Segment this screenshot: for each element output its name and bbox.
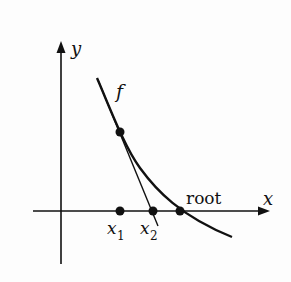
- x-axis-label: x: [263, 188, 273, 209]
- x2-label: x: [140, 218, 150, 238]
- y-axis-arrow-icon: [57, 41, 66, 53]
- point-x1: [116, 207, 125, 216]
- diagram-svg: y x f root x 1 x 2: [0, 0, 291, 282]
- x2-subscript: 2: [150, 229, 158, 243]
- curve-label-f: f: [114, 80, 126, 102]
- root-label: root: [186, 188, 222, 208]
- x1-subscript: 1: [117, 229, 125, 243]
- point-on-curve: [116, 128, 125, 137]
- x1-label: x: [107, 218, 117, 238]
- tangent-line: [98, 80, 158, 226]
- point-x2: [149, 207, 158, 216]
- y-axis-label: y: [70, 38, 82, 59]
- newton-method-diagram: y x f root x 1 x 2: [0, 0, 291, 282]
- point-root: [176, 207, 185, 216]
